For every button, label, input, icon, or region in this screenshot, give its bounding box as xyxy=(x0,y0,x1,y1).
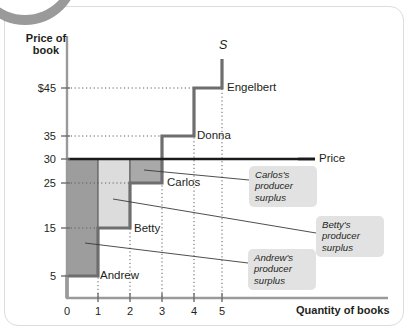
y-tick-label-5: 5 xyxy=(18,270,56,282)
x-tick-label-5: 5 xyxy=(212,305,232,317)
seller-label-carlos: Carlos xyxy=(167,176,200,189)
x-tick-label-2: 2 xyxy=(120,305,140,317)
y-tick-label-35: 35 xyxy=(18,130,56,142)
andrew-surplus-fill xyxy=(67,159,98,276)
callout-andrew-producer-surplus: Andrew's producer surplus xyxy=(248,249,316,290)
callout-carlos-producer-surplus: Carlos's producer surplus xyxy=(249,166,317,207)
x-axis-title: Quantity of books xyxy=(296,304,390,316)
x-tick-label-4: 4 xyxy=(184,305,204,317)
seller-label-donna: Donna xyxy=(197,129,231,142)
y-axis-title: Price of book xyxy=(18,32,74,57)
supply-curve-label: S xyxy=(219,38,227,52)
seller-label-engelbert: Engelbert xyxy=(227,81,276,94)
callout-betty-producer-surplus: Betty's producer surplus xyxy=(316,216,384,257)
andrew-leader-line xyxy=(85,243,248,263)
y-tick-label-15: 15 xyxy=(18,222,56,234)
y-tick-label-45: $45 xyxy=(18,82,56,94)
price-line-label: Price xyxy=(319,152,345,165)
x-tick-label-1: 1 xyxy=(88,305,108,317)
figure-container: Price of book Quantity of books $45 35 3… xyxy=(0,0,409,336)
y-tick-label-30: 30 xyxy=(18,153,56,165)
x-tick-label-0: 0 xyxy=(57,305,77,317)
betty-surplus-fill xyxy=(98,159,130,228)
seller-label-betty: Betty xyxy=(134,222,160,235)
seller-label-andrew: Andrew xyxy=(100,269,139,282)
x-tick-label-3: 3 xyxy=(152,305,172,317)
y-tick-label-25: 25 xyxy=(18,177,56,189)
